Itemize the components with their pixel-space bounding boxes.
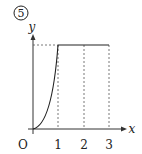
x-tick-3: 3 bbox=[105, 138, 113, 152]
graph: 5 y x O 1 2 3 bbox=[0, 0, 142, 154]
x-tick-2: 2 bbox=[80, 138, 88, 152]
figure-number: 5 bbox=[18, 7, 25, 20]
y-axis-label: y bbox=[28, 20, 36, 34]
x-axis-arrow-icon bbox=[121, 127, 127, 132]
x-axis-label: x bbox=[129, 122, 136, 136]
origin-label: O bbox=[18, 138, 28, 152]
x-tick-1: 1 bbox=[54, 138, 62, 152]
curve bbox=[33, 45, 58, 129]
y-axis-arrow-icon bbox=[31, 34, 36, 40]
